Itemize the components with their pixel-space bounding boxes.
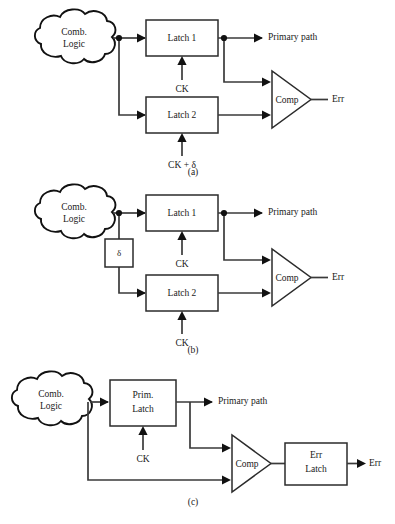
clock-latch2-b: CK (175, 311, 188, 348)
comb-logic-label-line1: Comb. (61, 27, 87, 37)
primary-path-label: Primary path (268, 207, 318, 217)
comb-logic-cloud-c: Comb. Logic (12, 371, 93, 425)
clock-prim-latch-label: CK (136, 454, 149, 464)
latch1-label: Latch 1 (168, 208, 197, 218)
err-output-label: Err (369, 458, 382, 468)
err-output-label: Err (332, 94, 345, 104)
clock-latch1-a: CK (175, 56, 188, 94)
latch1-block-a: Latch 1 (146, 20, 218, 56)
err-latch-label-line1: Err (310, 450, 323, 460)
comparator-c: Comp (232, 435, 285, 492)
clock-latch1-b: CK (175, 231, 188, 269)
comb-logic-label-line2: Logic (63, 39, 85, 49)
comparator-b: Comp Err (272, 249, 345, 306)
latch1-output-wire-a: Primary path (218, 32, 318, 86)
prim-latch-label-line1: Prim. (133, 390, 154, 400)
latch2-label: Latch 2 (168, 110, 197, 120)
comb-logic-label-line1: Comb. (38, 389, 64, 399)
prim-latch-block-c: Prim. Latch (110, 380, 176, 426)
comb-logic-label-line2: Logic (40, 401, 62, 411)
err-output-label: Err (332, 272, 345, 282)
comparator-label: Comp (275, 273, 298, 283)
err-latch-label-line2: Latch (305, 464, 327, 474)
latch2-block-a: Latch 2 (146, 97, 218, 133)
comparator-a: Comp Err (272, 71, 345, 128)
junction-dot-cloud-b (116, 210, 122, 216)
primary-path-label: Primary path (268, 32, 318, 42)
prim-latch-output-wire-c: Primary path (176, 396, 268, 452)
delay-label: δ (117, 248, 121, 258)
clock-latch2-a: CK + δ (168, 133, 196, 170)
prim-latch-label-line2: Latch (132, 404, 154, 414)
comparator-label: Comp (275, 95, 298, 105)
comb-logic-output-wire-a (113, 33, 146, 119)
comb-logic-cloud-b: Comb. Logic (35, 184, 116, 238)
comb-logic-cloud-a: Comb. Logic (35, 9, 116, 63)
comb-logic-label-line2: Logic (63, 214, 85, 224)
err-latch-block-c: Err Latch Err (285, 443, 382, 485)
junction-dot-latch1-b (221, 210, 227, 216)
caption-b: (b) (187, 345, 198, 355)
latch2-block-b: Latch 2 (146, 275, 218, 311)
clock-prim-latch-c: CK (136, 426, 149, 464)
latch1-block-b: Latch 1 (146, 195, 218, 231)
clock-latch1-label: CK (175, 84, 188, 94)
junction-dot-cloud-a (116, 35, 122, 41)
diagram-a: Comb. Logic Latch 1 Latch 2 CK (0, 0, 395, 180)
figure-root: Comb. Logic Latch 1 Latch 2 CK (0, 0, 395, 524)
diagram-c: Comb. Logic Prim. Latch CK Pr (0, 355, 395, 524)
delay-block-b: δ (105, 239, 133, 267)
diagram-b: Comb. Logic δ Latch 1 Latch 2 (0, 175, 395, 355)
latch2-output-wire-a (218, 110, 271, 119)
latch2-output-wire-b (218, 288, 271, 297)
latch2-label: Latch 2 (168, 288, 197, 298)
clock-latch1-label: CK (175, 259, 188, 269)
caption-c: (c) (188, 497, 199, 508)
junction-dot-latch1-a (221, 35, 227, 41)
latch1-label: Latch 1 (168, 33, 197, 43)
primary-path-label: Primary path (218, 396, 268, 406)
comparator-label: Comp (235, 459, 258, 469)
latch1-output-wire-b: Primary path (218, 207, 318, 264)
comb-logic-label-line1: Comb. (61, 202, 87, 212)
